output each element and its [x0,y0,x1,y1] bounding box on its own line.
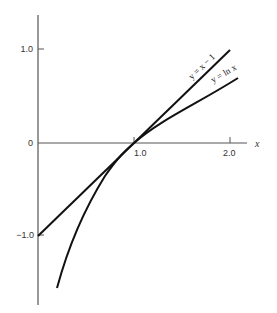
x-tick-label-1: 1.0 [134,148,147,158]
x-axis-label: x [254,138,260,149]
y-tick-label-neg1: −1.0 [16,230,34,240]
series-ln-x [57,78,238,288]
x-tick-label-2: 2.0 [223,148,236,158]
y-tick-label-1: 1.0 [20,44,33,54]
y-tick-label-0: 0 [28,138,33,148]
chart: 1.0 0 −1.0 1.0 2.0 x y = x − 1 y = ln x [0,0,277,313]
